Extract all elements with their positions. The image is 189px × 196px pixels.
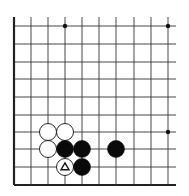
white-stone xyxy=(40,124,57,141)
white-stone-circle xyxy=(40,141,57,158)
black-stone xyxy=(74,159,91,176)
star-point-icon xyxy=(166,130,170,134)
black-stone xyxy=(108,141,125,158)
black-stone xyxy=(74,141,91,158)
white-stone xyxy=(57,159,74,176)
white-stone-circle xyxy=(40,124,57,141)
white-stone xyxy=(57,124,74,141)
white-stone-circle xyxy=(57,159,74,176)
black-stone xyxy=(57,141,74,158)
black-stone-circle xyxy=(74,159,91,176)
star-point-icon xyxy=(63,24,67,28)
black-stone-circle xyxy=(74,141,91,158)
go-board xyxy=(0,0,189,196)
black-stone-circle xyxy=(108,141,125,158)
black-stone-circle xyxy=(57,141,74,158)
board-grid xyxy=(14,17,176,185)
star-point-icon xyxy=(166,24,170,28)
white-stone xyxy=(40,141,57,158)
white-stone-circle xyxy=(57,124,74,141)
